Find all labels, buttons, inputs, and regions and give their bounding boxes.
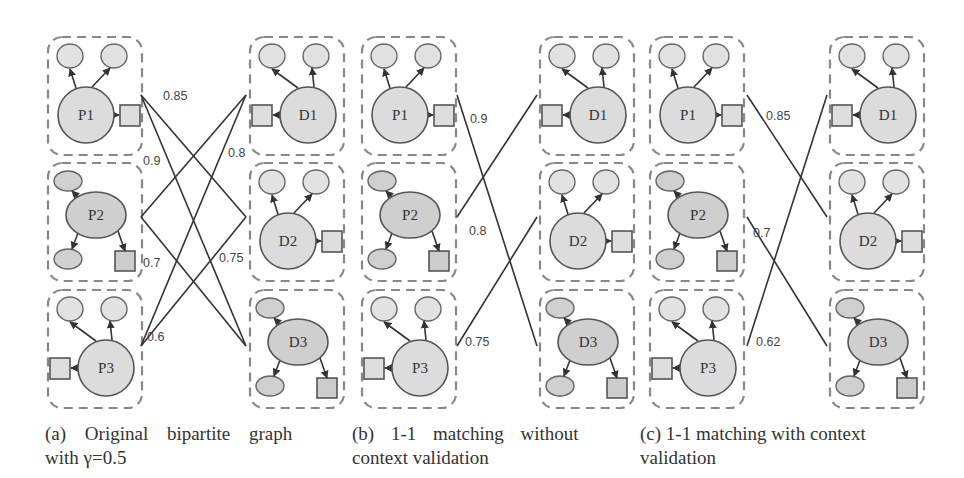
p1-attr-node (57, 44, 83, 68)
arrow (602, 68, 604, 87)
arrow (272, 69, 298, 88)
arrow (564, 360, 570, 376)
arrow (564, 318, 570, 324)
d2-label: D2 (569, 233, 587, 249)
d3-label: D3 (869, 334, 887, 350)
p2-attr-node (656, 171, 684, 191)
edge-weight-label: 0.62 (756, 335, 780, 349)
arrow (674, 233, 680, 249)
p2-attr-node (368, 171, 396, 191)
p1-label: P1 (680, 107, 696, 123)
arrow (892, 68, 894, 87)
d3-attr-node (256, 298, 284, 318)
p3-label: P3 (700, 360, 716, 376)
p2-label: P2 (88, 207, 104, 223)
edge-weight-label: 0.7 (143, 256, 160, 270)
d2-attr-square (902, 231, 922, 252)
p1-attr-node (371, 44, 397, 68)
arrow (72, 233, 78, 249)
d2-attr-node (259, 170, 285, 194)
d1-attr-square (252, 105, 272, 126)
arrow (70, 69, 76, 88)
edge-weight-label: 0.8 (469, 224, 486, 238)
d2-attr-node (303, 170, 329, 194)
arrow (584, 194, 602, 213)
p2-label: P2 (690, 207, 706, 223)
figure-canvas: P1P2P3D1D2D30.850.90.80.70.750.6P1P2P3D1… (0, 0, 964, 478)
caption-c-line2: validation (640, 446, 716, 470)
d2-attr-square (612, 231, 632, 252)
p1-attr-square (434, 105, 454, 126)
arrow (562, 195, 568, 214)
arrow (70, 322, 96, 341)
arrow (312, 68, 314, 87)
caption-a-line2: with γ=0.5 (45, 446, 126, 470)
p3-attr-node (703, 297, 729, 321)
arrow (852, 195, 858, 214)
arrow (386, 191, 392, 197)
edge-weight-label: 0.9 (143, 154, 160, 168)
d1-attr-node (839, 44, 865, 68)
d1-attr-square (542, 105, 562, 126)
edge-p1-d3 (457, 95, 537, 346)
p2-attr-square (115, 251, 135, 271)
d1-label: D1 (879, 107, 897, 123)
p1-attr-node (415, 44, 441, 68)
caption-b-line2: context validation (352, 446, 489, 470)
arrow (72, 191, 78, 197)
p3-attr-node (659, 297, 685, 321)
caption-a-line1: (a) Original bipartite graph (45, 422, 292, 446)
d1-label: D1 (299, 107, 317, 123)
d1-attr-node (883, 44, 909, 68)
p3-label: P3 (412, 360, 428, 376)
arrow (432, 231, 439, 251)
p3-attr-node (57, 297, 83, 321)
edge-p2-d1 (457, 95, 537, 217)
arrow (406, 68, 424, 87)
d1-attr-node (549, 44, 575, 68)
d2-label: D2 (279, 233, 297, 249)
p2-attr-node (54, 249, 82, 269)
arrow (874, 194, 892, 213)
arrow (694, 68, 712, 87)
edge-weight-label: 0.8 (228, 146, 245, 160)
edge-weight-label: 0.75 (219, 251, 243, 265)
arrow (92, 68, 110, 87)
caption-c-line1: (c) 1-1 matching with context (640, 422, 866, 446)
edge-weight-label: 0.85 (766, 109, 790, 123)
p3-attr-node (371, 297, 397, 321)
d3-label: D3 (289, 334, 307, 350)
d3-label: D3 (579, 334, 597, 350)
d1-attr-square (832, 105, 852, 126)
arrow (274, 318, 280, 324)
p3-attr-node (415, 297, 441, 321)
d1-attr-node (593, 44, 619, 68)
arrow (294, 194, 312, 213)
arrow (854, 318, 860, 324)
d1-label: D1 (589, 107, 607, 123)
panel-a: P1P2P3D1D2D30.850.90.80.70.750.6 (48, 37, 344, 408)
d3-attr-node (546, 376, 574, 396)
arrow (384, 69, 390, 88)
p1-attr-square (120, 105, 140, 126)
d2-attr-node (839, 170, 865, 194)
caption-b-line1: (b) 1-1 matching without (352, 422, 579, 446)
p2-attr-square (717, 251, 737, 271)
p1-attr-node (659, 44, 685, 68)
p1-attr-node (101, 44, 127, 68)
arrow (672, 322, 698, 341)
arrow (852, 69, 878, 88)
p3-attr-square (652, 358, 672, 379)
panel-c: P1P2P3D1D2D30.850.70.62 (650, 37, 924, 408)
edge-weight-label: 0.6 (147, 330, 164, 344)
p2-attr-node (54, 171, 82, 191)
d3-attr-node (836, 298, 864, 318)
d3-attr-node (836, 376, 864, 396)
edge-p3-d1 (747, 95, 827, 346)
d2-attr-square (322, 231, 342, 252)
p1-label: P1 (392, 107, 408, 123)
arrow (610, 358, 617, 378)
arrow (720, 231, 727, 251)
arrow (424, 321, 426, 340)
d3-attr-node (256, 376, 284, 396)
